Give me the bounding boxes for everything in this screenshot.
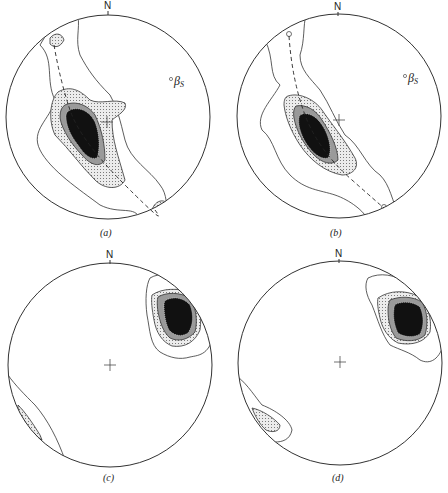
- north-label: N: [334, 1, 341, 12]
- beta-s-label: βS: [173, 74, 184, 89]
- contour-sw-outer: [5, 375, 65, 460]
- panel-b: N βS (b): [237, 1, 441, 239]
- edge-patch-n: [287, 32, 292, 37]
- panel-b-contours: [260, 15, 400, 219]
- north-label: N: [106, 249, 113, 260]
- panel-a: N βS (a): [6, 0, 210, 239]
- panel-c: N (c): [5, 249, 215, 484]
- contour-level-1: [260, 15, 400, 219]
- beta-s-point-icon: [169, 77, 172, 80]
- contour-level-4: [394, 302, 423, 336]
- north-label: N: [104, 0, 111, 11]
- panel-a-contours: [37, 15, 170, 219]
- caption-b: (b): [330, 227, 342, 239]
- beta-s-point-icon: [403, 74, 406, 77]
- beta-s-label: βS: [407, 71, 418, 86]
- caption-d: (d): [332, 472, 344, 484]
- panel-d: N (d): [238, 248, 445, 484]
- north-label: N: [335, 248, 342, 259]
- caption-a: (a): [100, 227, 112, 239]
- panel-d-contours: [238, 275, 445, 442]
- caption-c: (c): [103, 472, 115, 484]
- figure-canvas: N βS (a) N βS (b): [0, 0, 448, 493]
